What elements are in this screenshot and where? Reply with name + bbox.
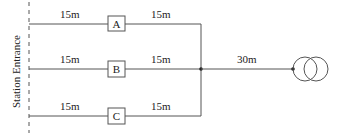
device-label-a: A [113, 18, 121, 30]
length-label-c-right: 15m [151, 100, 171, 112]
length-label-a-right: 15m [151, 8, 171, 20]
wiring-diagram: Station Entrance A 15m 15m B 15m 15m C 1… [0, 0, 344, 133]
transformer-icon [293, 57, 328, 81]
device-label-b: B [113, 63, 120, 75]
branch-b: B 15m 15m [29, 53, 201, 77]
length-label-c-left: 15m [60, 100, 80, 112]
station-entrance-label: Station Entrance [10, 35, 22, 108]
branch-c: C 15m 15m [29, 100, 201, 124]
device-label-c: C [113, 110, 120, 122]
length-label-b-right: 15m [151, 53, 171, 65]
length-label-b-left: 15m [60, 53, 80, 65]
feeder-length-label: 30m [237, 53, 257, 65]
length-label-a-left: 15m [60, 8, 80, 20]
branch-a: A 15m 15m [29, 8, 201, 31]
